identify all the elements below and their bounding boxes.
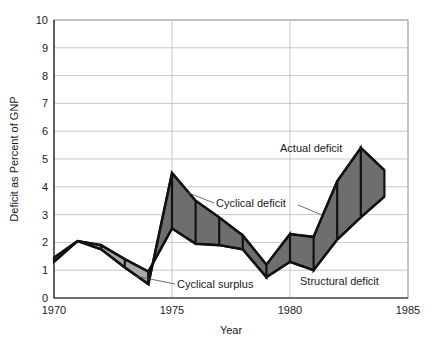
annotation-actual-deficit: Actual deficit bbox=[280, 142, 342, 154]
y-tick-6: 6 bbox=[42, 125, 48, 137]
y-tick-labels: 10 9 8 7 6 5 4 3 2 1 0 bbox=[36, 14, 48, 304]
annotation-cyclical-surplus: Cyclical surplus bbox=[177, 278, 254, 290]
x-tick-labels: 1970 1975 1980 1985 bbox=[42, 304, 420, 316]
annotation-cyclical-deficit: Cyclical deficit bbox=[216, 197, 286, 209]
y-tick-4: 4 bbox=[42, 181, 48, 193]
annotation-structural-deficit: Structural deficit bbox=[300, 275, 379, 287]
y-axis-title: Deficit as Percent of GNP bbox=[8, 96, 20, 221]
x-tick-1985: 1985 bbox=[396, 304, 420, 316]
chart-canvas: 10 9 8 7 6 5 4 3 2 1 0 1970 1975 1980 19… bbox=[0, 0, 444, 342]
x-axis-title: Year bbox=[220, 324, 243, 336]
y-tick-10: 10 bbox=[36, 14, 48, 26]
y-tick-0: 0 bbox=[42, 292, 48, 304]
y-tick-2: 2 bbox=[42, 236, 48, 248]
leader-cyclical-deficit-right bbox=[298, 205, 322, 215]
deficit-gnp-chart: 10 9 8 7 6 5 4 3 2 1 0 1970 1975 1980 19… bbox=[0, 0, 444, 342]
y-tick-3: 3 bbox=[42, 209, 48, 221]
y-tick-8: 8 bbox=[42, 70, 48, 82]
y-tick-5: 5 bbox=[42, 153, 48, 165]
y-tick-1: 1 bbox=[42, 264, 48, 276]
x-tick-1980: 1980 bbox=[278, 304, 302, 316]
x-tick-1975: 1975 bbox=[160, 304, 184, 316]
y-tick-7: 7 bbox=[42, 97, 48, 109]
y-tick-9: 9 bbox=[42, 42, 48, 54]
x-tick-1970: 1970 bbox=[42, 304, 66, 316]
